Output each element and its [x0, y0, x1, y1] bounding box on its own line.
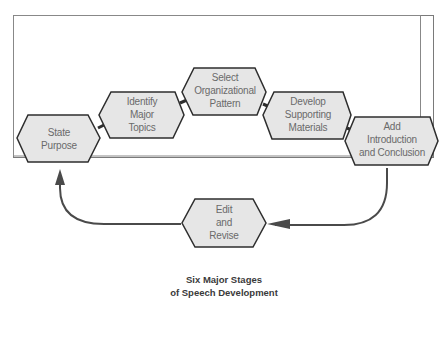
- arrowhead-left-icon: [267, 219, 290, 229]
- label-line: Select: [186, 71, 264, 84]
- label-line: Edit: [190, 203, 258, 216]
- label-line: State: [28, 126, 90, 139]
- label-line: Develop: [268, 95, 348, 108]
- return-arrow-line: [275, 168, 387, 225]
- label-line: Pattern: [186, 97, 264, 110]
- label-line: and: [190, 216, 258, 229]
- label-line: Introduction: [348, 133, 436, 146]
- stage-label-add-introduction-and-conclusion: Add Introduction and Conclusion: [348, 120, 436, 159]
- label-line: Supporting: [268, 108, 348, 121]
- stage-label-develop-supporting-materials: Develop Supporting Materials: [268, 95, 348, 134]
- stage-label-identify-major-topics: Identify Major Topics: [108, 95, 176, 134]
- label-line: Revise: [190, 229, 258, 242]
- stage-label-edit-and-revise: Edit and Revise: [190, 203, 258, 242]
- diagram-caption-line1: Six Major Stages: [0, 273, 448, 286]
- arrowhead-up-icon: [55, 169, 65, 185]
- diagram-caption-line2: of Speech Development: [0, 286, 448, 299]
- label-line: and Conclusion: [348, 146, 436, 159]
- loop-arrow-line: [60, 180, 181, 224]
- label-line: Add: [348, 120, 436, 133]
- stage-label-select-organizational-pattern: Select Organizational Pattern: [186, 71, 264, 110]
- label-line: Organizational: [186, 84, 264, 97]
- label-line: Topics: [108, 121, 176, 134]
- label-line: Purpose: [28, 139, 90, 152]
- stage-label-state-purpose: State Purpose: [28, 126, 90, 152]
- label-line: Materials: [268, 121, 348, 134]
- label-line: Identify: [108, 95, 176, 108]
- label-line: Major: [108, 108, 176, 121]
